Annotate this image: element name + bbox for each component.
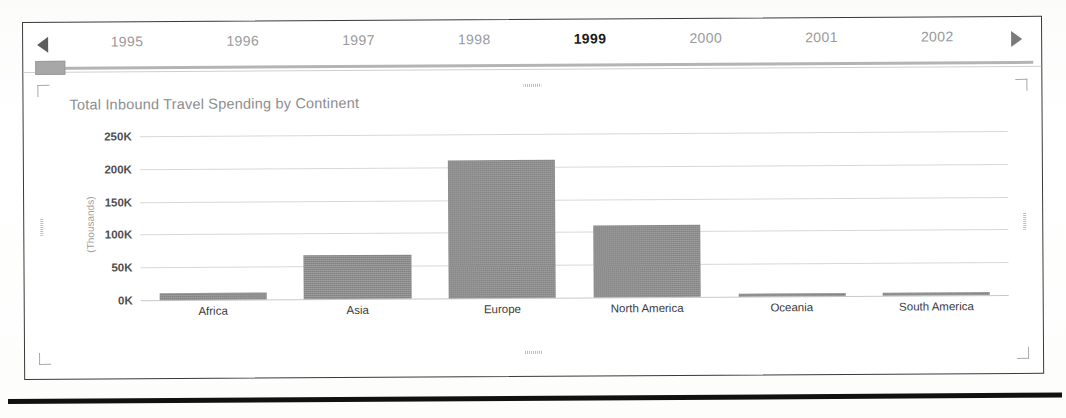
page-canvas: 19951996199719981999200020012002 xyxy=(0,0,1066,418)
page-bottom-rule xyxy=(8,393,1062,404)
timeline-slider[interactable]: 19951996199719981999200020012002 xyxy=(23,17,1041,73)
bar-cell-oceania xyxy=(718,122,864,297)
y-tick-label-150K: 150K xyxy=(105,196,133,208)
timeline-year-2000[interactable]: 2000 xyxy=(689,30,722,46)
y-tick-label-0K: 0K xyxy=(118,294,133,306)
x-tick-label-north-america: North America xyxy=(575,297,720,320)
triangle-left-icon xyxy=(37,37,48,53)
timeline-thumb[interactable] xyxy=(35,61,65,75)
bar-north-america[interactable] xyxy=(593,225,700,298)
plot-area-wrapper: (Thousands) 0K50K100K150K200K250K Africa… xyxy=(70,121,1009,323)
resize-handle-right-middle[interactable] xyxy=(1023,212,1026,230)
y-tick-label-200K: 200K xyxy=(104,163,132,175)
timeline-year-1995[interactable]: 1995 xyxy=(111,33,144,49)
plot-area xyxy=(140,121,1009,300)
timeline-year-2001[interactable]: 2001 xyxy=(805,29,838,45)
y-tick-label-250K: 250K xyxy=(104,130,132,142)
resize-handle-bottom-right[interactable] xyxy=(1017,347,1029,359)
bar-series xyxy=(140,121,1009,300)
x-tick-label-asia: Asia xyxy=(285,299,430,322)
timeline-year-1998[interactable]: 1998 xyxy=(458,31,491,47)
resize-handle-bottom-middle[interactable] xyxy=(525,351,543,354)
timeline-year-1999[interactable]: 1999 xyxy=(574,30,607,46)
bar-cell-africa xyxy=(140,125,286,300)
bar-cell-south-america xyxy=(863,121,1009,296)
timeline-next-button[interactable] xyxy=(1011,31,1027,47)
bar-cell-north-america xyxy=(574,123,720,298)
chart-title: Total Inbound Travel Spending by Contine… xyxy=(69,95,359,113)
resize-handle-bottom-left[interactable] xyxy=(39,353,51,365)
timeline-prev-button[interactable] xyxy=(37,37,53,53)
x-axis-tick-labels: AfricaAsiaEuropeNorth AmericaOceaniaSout… xyxy=(141,295,1009,322)
timeline-year-1997[interactable]: 1997 xyxy=(342,32,375,48)
resize-handle-top-right[interactable] xyxy=(1015,79,1027,91)
y-tick-label-100K: 100K xyxy=(105,229,133,241)
bar-cell-europe xyxy=(429,124,575,299)
x-tick-label-south-america: South America xyxy=(864,295,1009,318)
resize-handle-left-middle[interactable] xyxy=(40,218,43,236)
bar-asia[interactable] xyxy=(304,255,411,300)
resize-handle-top-middle[interactable] xyxy=(523,84,541,87)
timeline-year-list: 19951996199719981999200020012002 xyxy=(69,17,995,65)
resize-handle-top-left[interactable] xyxy=(37,85,49,97)
timeline-year-2002[interactable]: 2002 xyxy=(921,28,954,44)
timeline-year-1996[interactable]: 1996 xyxy=(226,33,259,49)
x-tick-label-africa: Africa xyxy=(141,299,286,322)
embedded-chart-object-frame: 19951996199719981999200020012002 xyxy=(22,16,1044,380)
bar-cell-asia xyxy=(284,125,430,300)
chart-container[interactable]: Total Inbound Travel Spending by Contine… xyxy=(23,69,1043,379)
triangle-right-icon xyxy=(1011,31,1022,47)
y-tick-label-50K: 50K xyxy=(111,261,132,273)
x-tick-label-oceania: Oceania xyxy=(719,296,864,319)
y-axis-tick-labels: 0K50K100K150K200K250K xyxy=(84,126,137,300)
x-tick-label-europe: Europe xyxy=(430,298,575,321)
bar-europe[interactable] xyxy=(448,160,556,299)
